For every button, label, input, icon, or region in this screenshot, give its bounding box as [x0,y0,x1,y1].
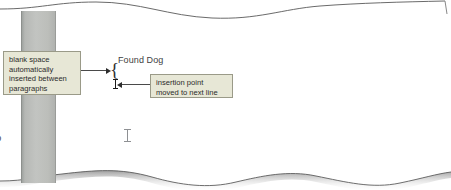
curly-brace-icon: { [110,60,119,79]
arrowhead-blank-space-icon [106,68,111,74]
callout-line: inserted between [9,74,76,84]
callout-insertion-point: insertion point moved to next line [150,74,233,98]
callout-line: paragraphs [9,84,76,94]
callout-line: automatically [9,65,76,75]
callout-line: insertion point [156,78,228,88]
diagram-canvas: o Found Dog { blank space automatically … [0,0,451,190]
callout-blank-space: blank space automatically inserted betwe… [3,51,81,95]
margin-ruler-bar[interactable] [21,11,56,183]
leader-line-blank-space [81,70,108,71]
callout-line: moved to next line [156,88,228,98]
leader-line-insertion-point [121,84,151,85]
arrowhead-insertion-point-icon [117,82,122,88]
document-heading-text: Found Dog [118,55,163,65]
insertion-point-caret [115,79,116,89]
clipped-document-text: o [0,133,1,143]
callout-line: blank space [9,55,76,65]
i-beam-pointer-icon [127,129,128,142]
